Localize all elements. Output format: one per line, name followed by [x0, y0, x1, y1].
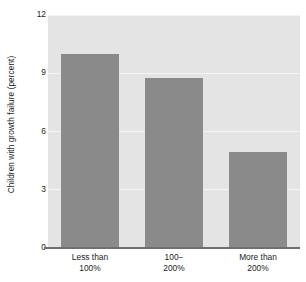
bar-chart: Children with growth failure (percent) 0…	[0, 0, 306, 282]
y-tick-label: 9	[28, 68, 46, 76]
x-tick-label-line: 200%	[132, 263, 216, 274]
x-axis-line	[44, 247, 300, 249]
bars-group	[48, 15, 300, 248]
x-tick-label: Less than100%	[48, 252, 132, 274]
y-axis-title-text: Children with growth failure (percent)	[8, 55, 17, 193]
plot-area	[48, 15, 300, 248]
x-axis-ticks: Less than100%100−200%More than200%	[48, 252, 300, 282]
bar	[229, 152, 287, 248]
y-axis-title: Children with growth failure (percent)	[0, 0, 24, 248]
y-axis-ticks: 036912	[24, 0, 46, 282]
y-tick-label: 12	[28, 10, 46, 18]
y-tick-label: 3	[28, 185, 46, 193]
bar	[61, 54, 119, 248]
x-tick-label-line: 100−	[165, 252, 184, 262]
bar	[145, 78, 203, 248]
x-tick-label-line: More than	[239, 252, 277, 262]
x-tick-label-line: 100%	[48, 263, 132, 274]
x-tick-label-line: 200%	[216, 263, 300, 274]
y-tick-label: 6	[28, 127, 46, 135]
x-tick-label: 100−200%	[132, 252, 216, 274]
x-tick-label: More than200%	[216, 252, 300, 274]
x-tick-label-line: Less than	[72, 252, 108, 262]
